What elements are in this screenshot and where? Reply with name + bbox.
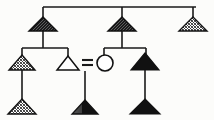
generation-2-sibship-lines: [22, 48, 146, 56]
pedigree-canvas: =: [0, 0, 214, 120]
node-g2-1[interactable]: [9, 55, 35, 70]
node-g3-2[interactable]: [72, 100, 98, 114]
node-g2-3[interactable]: [97, 55, 113, 71]
triangle-male-cross-hatched[interactable]: [8, 99, 36, 114]
triangle-male-dark-hatched[interactable]: [72, 100, 98, 114]
triangle-male-cross-hatched[interactable]: [9, 55, 35, 70]
circle-female-open[interactable]: [97, 55, 113, 71]
node-g3-1[interactable]: [8, 99, 36, 114]
node-g3-3[interactable]: [130, 99, 160, 114]
node-g1-2[interactable]: [108, 17, 136, 31]
triangle-male-solid[interactable]: [131, 53, 159, 70]
triangle-male-cross-hatched[interactable]: [179, 17, 207, 31]
node-g2-2[interactable]: [57, 56, 79, 70]
triangle-male-open[interactable]: [57, 56, 79, 70]
node-g1-3[interactable]: [179, 17, 207, 31]
node-g1-1[interactable]: [29, 17, 57, 31]
triangle-male-dark-hatched[interactable]: [108, 17, 136, 31]
generation-1-sibship-lines: [43, 7, 196, 17]
mating-equals-symbol: =: [82, 60, 93, 65]
triangle-male-solid[interactable]: [130, 99, 160, 114]
pedigree-diagram: =: [0, 0, 214, 120]
triangle-male-dark-hatched[interactable]: [29, 17, 57, 31]
node-g2-4[interactable]: [131, 53, 159, 70]
generation-3-descent-stems: [22, 70, 145, 100]
